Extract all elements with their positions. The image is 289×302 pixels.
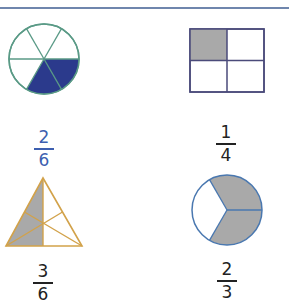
numerator: 2 xyxy=(212,261,242,278)
numerator: 1 xyxy=(211,124,241,141)
circle-thirds-figure xyxy=(192,175,262,245)
shaded-fourth xyxy=(190,29,227,61)
numerator: 3 xyxy=(28,263,58,280)
denominator: 4 xyxy=(211,147,241,164)
fraction-label-2-6: 2 6 xyxy=(29,129,59,169)
square-fourths-figure xyxy=(190,29,264,92)
denominator: 3 xyxy=(212,284,242,301)
fraction-label-3-6: 3 6 xyxy=(28,263,58,302)
denominator: 6 xyxy=(29,152,59,169)
circle-sixths-figure xyxy=(9,24,79,94)
fraction-label-1-4: 1 4 xyxy=(211,124,241,164)
denominator: 6 xyxy=(28,286,58,302)
fraction-label-2-3: 2 3 xyxy=(212,261,242,301)
numerator: 2 xyxy=(29,129,59,146)
triangle-sixths-figure xyxy=(6,178,82,246)
